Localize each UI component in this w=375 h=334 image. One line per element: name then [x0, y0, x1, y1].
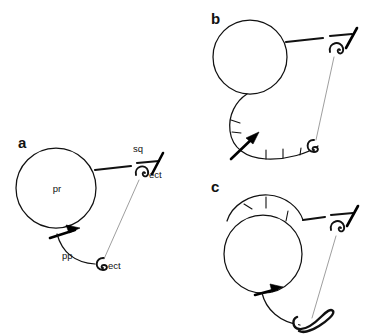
panel-a-label-pr: pr	[53, 183, 61, 194]
panel-b-letter: b	[211, 10, 220, 27]
panel-a-label-ect-upper: ect	[149, 169, 162, 180]
panel-a-label-ect-lower: ect	[108, 260, 121, 271]
panel-c-letter: c	[211, 178, 219, 195]
canvas-background	[0, 0, 375, 334]
diagram-svg: a sq ect pr pp ect	[0, 0, 375, 334]
panel-a-label-sq: sq	[133, 143, 143, 154]
figure-canvas: a sq ect pr pp ect	[0, 0, 375, 334]
panel-a-label-pp: pp	[62, 250, 73, 261]
panel-a-letter: a	[18, 134, 27, 151]
